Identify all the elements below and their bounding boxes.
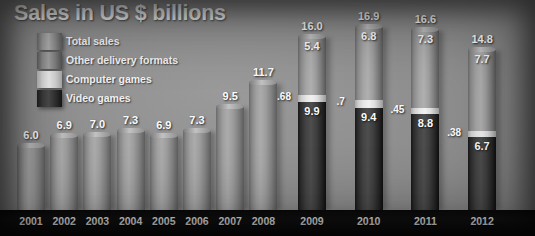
- bar-cap: [183, 128, 211, 133]
- segment-video-games: [298, 102, 326, 210]
- segment-computer-games: [355, 100, 383, 108]
- bar-cap: [468, 47, 496, 52]
- segment-total-sales: [183, 130, 211, 210]
- value-label-total-2010: 16.9: [355, 10, 383, 22]
- value-label-total-2009: 16.0: [298, 20, 326, 32]
- x-axis-label-2003: 2003: [79, 215, 115, 227]
- x-axis-label-2009: 2009: [294, 215, 330, 227]
- bar-cap: [216, 104, 244, 109]
- segment-total-sales: [50, 135, 78, 210]
- value-label-computer-2012: .38: [442, 127, 466, 138]
- bar-cap: [150, 133, 178, 138]
- segment-computer-games: [298, 95, 326, 102]
- x-axis-label-2002: 2002: [46, 215, 82, 227]
- bar-2003[interactable]: [83, 134, 111, 210]
- value-label-total-2011: 16.6: [411, 13, 439, 25]
- value-label-other-2012: 7.7: [468, 53, 496, 65]
- x-axis-label-2012: 2012: [464, 215, 500, 227]
- bar-2009[interactable]: [298, 36, 326, 210]
- bar-2007[interactable]: [216, 106, 244, 210]
- value-label-total-2007: 9.5: [216, 90, 244, 102]
- x-axis-label-2004: 2004: [113, 215, 149, 227]
- value-label-total-2003: 7.0: [83, 118, 111, 130]
- x-axis: 2001200220032004200520062007200820092010…: [0, 210, 535, 236]
- bar-cap: [298, 34, 326, 39]
- value-label-video-2009: 9.9: [298, 105, 326, 117]
- value-label-total-2002: 6.9: [50, 119, 78, 131]
- segment-total-sales: [117, 130, 145, 210]
- x-axis-label-2005: 2005: [146, 215, 182, 227]
- x-axis-label-2010: 2010: [351, 215, 387, 227]
- value-label-other-2011: 7.3: [411, 33, 439, 45]
- value-label-total-2005: 6.9: [150, 119, 178, 131]
- plot-area: 6.06.97.07.36.97.39.511.716.05.4.689.916…: [0, 0, 535, 210]
- bar-cap: [411, 27, 439, 32]
- bar-2004[interactable]: [117, 130, 145, 210]
- segment-total-sales: [17, 145, 45, 210]
- value-label-total-2006: 7.3: [183, 114, 211, 126]
- value-label-computer-2009: .68: [272, 91, 296, 102]
- bar-cap: [355, 24, 383, 29]
- bar-cap: [17, 143, 45, 148]
- x-axis-label-2011: 2011: [407, 215, 443, 227]
- segment-total-sales: [216, 106, 244, 210]
- x-axis-label-2007: 2007: [212, 215, 248, 227]
- bar-2012[interactable]: [468, 49, 496, 210]
- value-label-total-2008: 11.7: [249, 66, 277, 78]
- bar-2002[interactable]: [50, 135, 78, 210]
- bar-cap: [117, 128, 145, 133]
- bar-2005[interactable]: [150, 135, 178, 210]
- segment-total-sales: [150, 135, 178, 210]
- bar-cap: [83, 132, 111, 137]
- value-label-computer-2010: .7: [329, 96, 353, 107]
- value-label-total-2001: 6.0: [17, 129, 45, 141]
- value-label-video-2012: 6.7: [468, 140, 496, 152]
- chart-container: Sales in US $ billions Total sales Other…: [0, 0, 535, 236]
- value-label-computer-2011: .45: [385, 104, 409, 115]
- segment-total-sales: [83, 134, 111, 210]
- x-axis-label-2008: 2008: [245, 215, 281, 227]
- value-label-video-2011: 8.8: [411, 117, 439, 129]
- value-label-other-2009: 5.4: [298, 40, 326, 52]
- value-label-video-2010: 9.4: [355, 111, 383, 123]
- value-label-total-2012: 14.8: [468, 33, 496, 45]
- bar-cap: [50, 133, 78, 138]
- value-label-other-2010: 6.8: [355, 30, 383, 42]
- bar-2001[interactable]: [17, 145, 45, 210]
- bar-2006[interactable]: [183, 130, 211, 210]
- value-label-total-2004: 7.3: [117, 114, 145, 126]
- x-axis-label-2001: 2001: [13, 215, 49, 227]
- x-axis-label-2006: 2006: [179, 215, 215, 227]
